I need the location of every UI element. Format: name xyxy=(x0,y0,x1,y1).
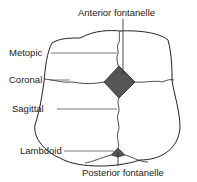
skull-diagram: Anterior fontanelle Metopic Coronal Sagi… xyxy=(0,0,197,182)
coronal-label: Coronal xyxy=(9,75,42,85)
metopic-label: Metopic xyxy=(9,48,42,58)
posterior-fontanelle-label: Posterior fontanelle xyxy=(82,168,164,178)
metopic-suture xyxy=(117,31,120,70)
sagittal-label: Sagittal xyxy=(12,104,44,114)
lambdoid-label: Lambdoid xyxy=(20,146,62,156)
anterior-fontanelle-label: Anterior fontanelle xyxy=(78,8,155,18)
anterior-fontanelle-shape xyxy=(104,66,135,98)
sagittal-suture xyxy=(117,98,119,148)
